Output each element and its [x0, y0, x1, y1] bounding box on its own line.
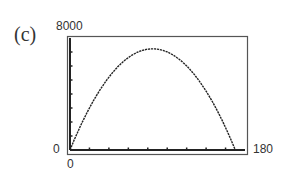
axes: [70, 38, 245, 150]
curve: [70, 49, 235, 150]
graph-window: [0, 0, 281, 172]
plot-frame: [68, 37, 248, 155]
